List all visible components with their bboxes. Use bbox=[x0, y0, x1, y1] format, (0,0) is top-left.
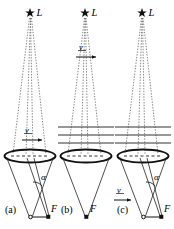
angle-label-c: α bbox=[154, 172, 159, 182]
lens-a bbox=[5, 150, 56, 163]
medium-lines-c bbox=[115, 127, 171, 143]
tilted-rays-c bbox=[140, 158, 162, 216]
panel-a: L v α bbox=[5, 7, 59, 219]
incoming-rays-b bbox=[68, 18, 101, 154]
panel-label-b: (b) bbox=[61, 204, 73, 216]
focus-label-a: F bbox=[50, 203, 58, 214]
panel-label-c: (c) bbox=[117, 204, 128, 216]
angle-label-a: α bbox=[41, 172, 46, 182]
figure-canvas: L v α bbox=[0, 0, 174, 229]
star-label-a: L bbox=[36, 7, 43, 18]
star-icon bbox=[137, 8, 147, 17]
focus-label-c: F bbox=[163, 203, 171, 214]
focus-baseline-a bbox=[29, 215, 51, 219]
focus-baseline-c bbox=[142, 215, 164, 219]
tilted-rays-a bbox=[27, 158, 49, 216]
velocity-label-c: v bbox=[117, 185, 121, 195]
medium-lines-b bbox=[58, 127, 114, 143]
panel-c: L α bbox=[114, 7, 171, 219]
focus-dot-b bbox=[84, 215, 88, 219]
velocity-label-a: v bbox=[25, 125, 29, 135]
star-icon bbox=[80, 8, 90, 17]
star-label-b: L bbox=[91, 7, 98, 18]
panel-b: L v F (b) bbox=[58, 7, 114, 219]
star-label-c: L bbox=[148, 7, 155, 18]
star-icon bbox=[25, 8, 35, 17]
velocity-label-b: v bbox=[79, 42, 83, 52]
panel-label-a: (a) bbox=[5, 204, 16, 216]
optics-figure: L v α bbox=[0, 0, 174, 229]
incoming-rays-c bbox=[125, 18, 158, 154]
lens-c bbox=[118, 150, 169, 163]
focus-label-b: F bbox=[89, 203, 97, 214]
lens-b bbox=[61, 150, 112, 163]
